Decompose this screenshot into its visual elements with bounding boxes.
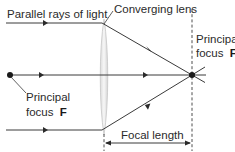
focus-symbol: F (230, 47, 235, 59)
arrow-icon (43, 20, 48, 26)
parallel-rays-label: Parallel rays of light (7, 8, 108, 20)
arrow-icon (43, 127, 48, 133)
converging-lens-diagram: Parallel rays of light Converging lens P… (0, 0, 235, 152)
bottom-ray (6, 75, 192, 133)
focus-word: focus (26, 106, 57, 118)
arrow-icon (39, 72, 44, 78)
arrow-icon (143, 72, 148, 78)
right-focus-label-line1: Principal (196, 33, 235, 45)
right-focus-point (189, 72, 195, 78)
right-focus-label-line2: focus F (196, 47, 235, 59)
left-focus-label-line2: focus F (26, 106, 67, 118)
arrow-right-icon (185, 141, 191, 146)
focus-symbol: F (60, 106, 67, 118)
focal-length-label: Focal length (121, 129, 184, 141)
top-ray (6, 20, 192, 75)
arrow-left-icon (105, 141, 111, 146)
lens-label: Converging lens (114, 3, 197, 15)
left-focus-leader (11, 77, 26, 93)
focus-word: focus (196, 47, 227, 59)
left-focus-label-line1: Principal (26, 91, 70, 103)
left-focus-point (7, 72, 13, 78)
arrow-icon (145, 104, 151, 110)
converging-lens (100, 19, 108, 135)
